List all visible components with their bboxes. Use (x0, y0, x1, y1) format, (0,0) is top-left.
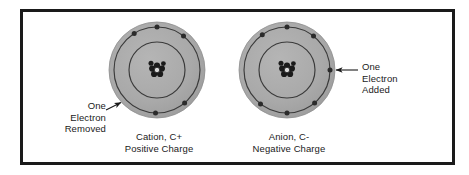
electron (311, 34, 316, 39)
electron (181, 34, 186, 39)
electron (312, 100, 317, 105)
electron (285, 111, 290, 116)
electron-added (328, 68, 333, 73)
electron (258, 101, 263, 106)
electron (155, 25, 160, 30)
electron (285, 25, 290, 30)
caption-cation: Cation, C+ Positive Charge (107, 131, 211, 154)
atom-anion (239, 22, 335, 118)
electron (132, 31, 137, 36)
electron (153, 110, 158, 115)
electron (260, 32, 265, 37)
annotation-one-electron-removed: One Electron Removed (30, 100, 106, 135)
atom-cation (109, 22, 205, 118)
electron (182, 100, 187, 105)
annotation-one-electron-added: One Electron Added (362, 61, 446, 96)
leader-arrow-removed (106, 103, 121, 111)
caption-anion: Anion, C- Negative Charge (237, 131, 341, 154)
atom-diagram-figure: One Electron Removed One Electron Added … (0, 0, 469, 175)
